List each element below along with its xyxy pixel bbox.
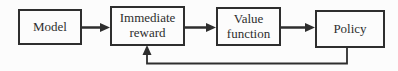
- node-immediate-reward: Immediate reward: [110, 6, 185, 46]
- node-value-function-label: Value function: [222, 12, 275, 42]
- node-model-label: Model: [33, 20, 67, 35]
- node-policy-label: Policy: [333, 22, 366, 37]
- arrow-immediate-reward-to-value-function: [184, 23, 216, 32]
- arrow-value-function-to-policy: [280, 23, 315, 32]
- flow-diagram: Model Immediate reward Value function Po…: [0, 0, 398, 71]
- arrow-model-to-immediate-reward: [81, 23, 110, 32]
- node-value-function: Value function: [216, 7, 281, 46]
- node-model: Model: [18, 9, 82, 45]
- node-immediate-reward-label: Immediate reward: [116, 11, 179, 41]
- node-policy: Policy: [315, 10, 385, 48]
